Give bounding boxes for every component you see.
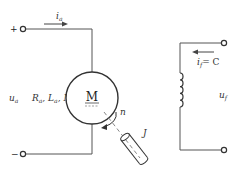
armature-voltage-label: ua: [9, 93, 19, 104]
field-terminal-top: [221, 40, 226, 45]
field-current-arrow: [192, 50, 214, 55]
field-terminal-bottom: [221, 147, 226, 152]
speed-label: n: [120, 107, 126, 117]
plus-sign: +: [10, 24, 18, 34]
inertia-label: J: [141, 128, 148, 138]
armature-current-label: ia: [56, 11, 63, 22]
dc-motor-diagram: + − ia ua Ra, La, M M n J if= C: [0, 0, 236, 177]
armature-current-arrow: [44, 22, 68, 27]
rotation-arrowhead: [101, 124, 107, 130]
shaft-line: [104, 112, 140, 158]
motor-label: M: [86, 90, 98, 104]
field-current-label: if= C: [197, 57, 220, 69]
minus-terminal: [20, 151, 25, 156]
field-voltage-label: uf: [219, 90, 229, 102]
field-inductor: [180, 73, 183, 107]
plus-terminal: [20, 26, 25, 31]
minus-sign: −: [11, 149, 19, 159]
